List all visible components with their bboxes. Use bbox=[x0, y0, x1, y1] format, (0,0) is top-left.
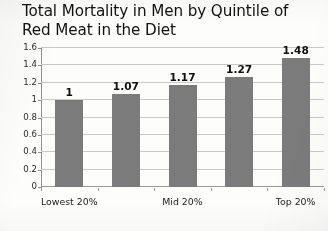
y-axis-tick-label: 0.6 bbox=[3, 130, 37, 139]
chart-title: Total Mortality in Men by Quintile of Re… bbox=[22, 2, 322, 39]
x-axis-tick-mark bbox=[324, 188, 325, 191]
bar bbox=[169, 85, 197, 187]
bar-value-label: 1.48 bbox=[268, 45, 324, 56]
y-axis-tick-label: 1.4 bbox=[3, 60, 37, 69]
x-axis-tick-mark bbox=[154, 188, 155, 191]
bar-slot: 1.07 bbox=[112, 48, 140, 187]
y-axis-tick-label: 0.8 bbox=[3, 113, 37, 122]
x-axis-tick-labels: Lowest 20%Mid 20%Top 20% bbox=[41, 196, 324, 216]
bar-value-label: 1.07 bbox=[98, 81, 154, 92]
x-axis-tick-label: Mid 20% bbox=[144, 196, 221, 207]
x-axis-tick-label: Top 20% bbox=[257, 196, 328, 207]
bar-value-label: 1.27 bbox=[211, 64, 267, 75]
y-axis-tick-label: 0.2 bbox=[3, 165, 37, 174]
bar bbox=[225, 77, 253, 187]
plot-area: 11.071.171.271.48 bbox=[41, 48, 324, 187]
bar bbox=[55, 100, 83, 187]
x-axis-tick-mark bbox=[267, 188, 268, 191]
y-axis-tick-label: 1.6 bbox=[3, 43, 37, 52]
x-axis-tick-label: Lowest 20% bbox=[31, 196, 108, 207]
y-axis-tick-label: 1.2 bbox=[3, 78, 37, 87]
bar-chart: Total Mortality in Men by Quintile of Re… bbox=[0, 0, 328, 231]
y-axis-tick-label: 1 bbox=[3, 95, 37, 104]
bar bbox=[282, 58, 310, 187]
x-axis-tick-mark bbox=[211, 188, 212, 191]
bar-value-label: 1 bbox=[41, 87, 97, 98]
x-axis-tick-mark bbox=[98, 188, 99, 191]
y-axis-tick-label: 0 bbox=[3, 182, 37, 191]
bar-slot: 1.27 bbox=[225, 48, 253, 187]
bar-slot: 1.48 bbox=[282, 48, 310, 187]
x-axis-tick-mark bbox=[41, 188, 42, 191]
bar-slot: 1.17 bbox=[169, 48, 197, 187]
bar-slot: 1 bbox=[55, 48, 83, 187]
bar-value-label: 1.17 bbox=[155, 72, 211, 83]
y-axis-tick-label: 0.4 bbox=[3, 147, 37, 156]
bar bbox=[112, 94, 140, 187]
